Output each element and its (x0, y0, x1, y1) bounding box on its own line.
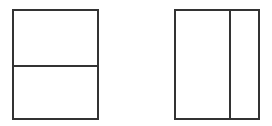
vertical-divider (229, 11, 231, 118)
horizontal-divider (14, 65, 97, 67)
left-rectangle (12, 9, 99, 120)
right-rectangle (174, 9, 260, 120)
